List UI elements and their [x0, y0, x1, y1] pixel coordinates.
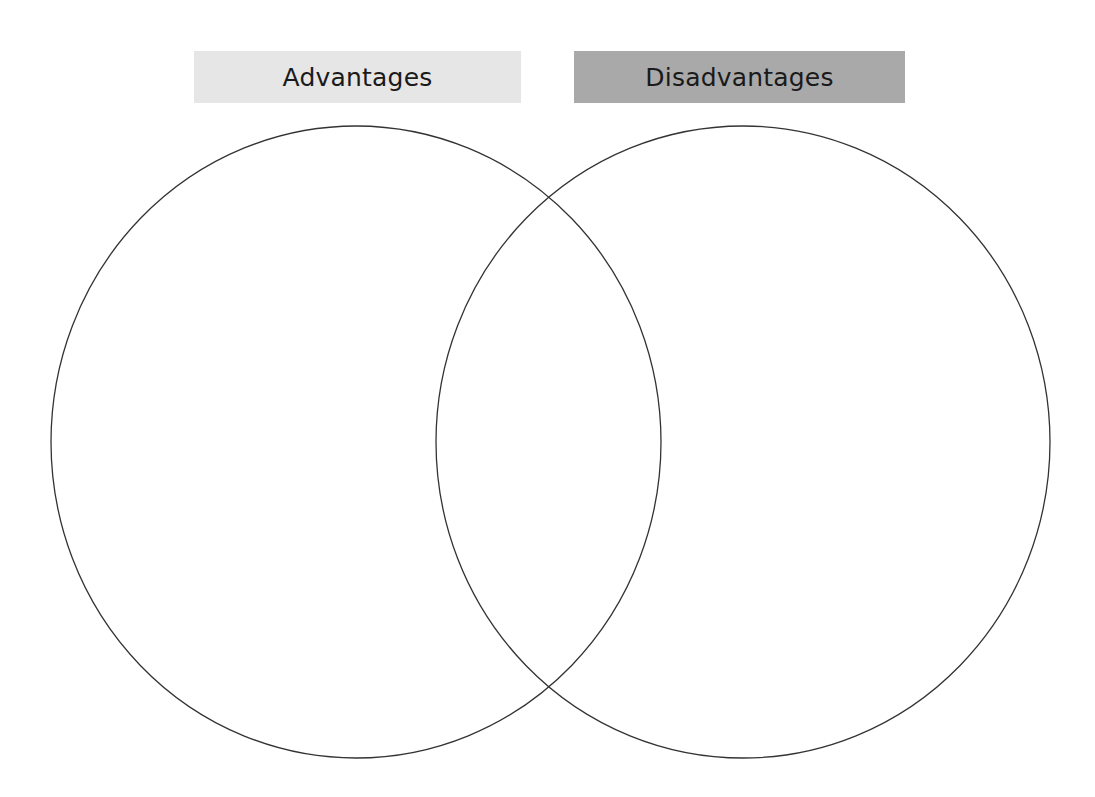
venn-diagram — [0, 0, 1095, 797]
disadvantages-circle — [436, 126, 1050, 758]
advantages-circle — [51, 126, 661, 758]
